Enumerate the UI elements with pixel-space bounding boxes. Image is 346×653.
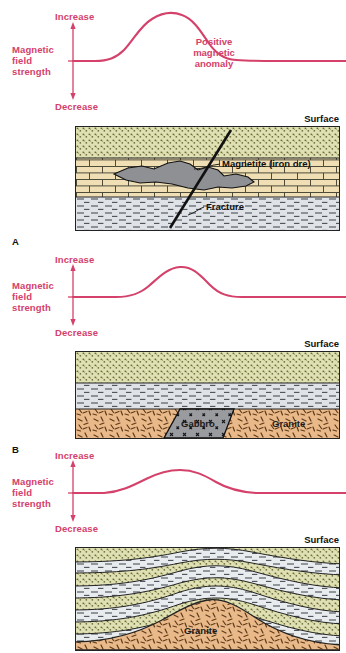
axis-label-line-3-b: strength xyxy=(12,302,54,313)
axis-label-magnetic-field-strength-c: Magnetic field strength xyxy=(12,476,54,509)
axis-label-line-2-b: field xyxy=(12,291,54,302)
granite-label-c: Granite xyxy=(184,625,217,636)
panel-b-cross-section: Gabbro Granite xyxy=(75,351,340,439)
axis-label-line-3: strength xyxy=(12,66,54,77)
panel-b-cross-section-svg: Gabbro Granite xyxy=(76,352,339,438)
panel-c-surface-label: Surface xyxy=(304,534,339,545)
granite-label-b: Granite xyxy=(272,418,305,429)
layer-sandstone xyxy=(76,127,339,158)
panel-b-surface-label: Surface xyxy=(304,338,339,349)
magnetite-label: Magnetite (iron ore) xyxy=(222,158,311,169)
axis-label-line-1-b: Magnetic xyxy=(12,280,54,291)
axis-label-decrease-c: Decrease xyxy=(55,523,98,534)
axis-label-decrease: Decrease xyxy=(55,101,98,112)
axis-label-line-1-c: Magnetic xyxy=(12,476,54,487)
anomaly-annotation-line-2: magnetic xyxy=(172,47,256,58)
anomaly-annotation-line-1: Positive xyxy=(172,36,256,47)
axis-label-line-2-c: field xyxy=(12,487,54,498)
gabbro-label: Gabbro xyxy=(181,418,215,429)
panel-c-anomaly-curve xyxy=(73,470,346,493)
axis-label-line-2: field xyxy=(12,55,54,66)
panel-c-cross-section-svg: Granite xyxy=(76,548,339,650)
panel-a-anomaly-annotation: Positive magnetic anomaly xyxy=(172,36,256,69)
panel-a-surface-label: Surface xyxy=(304,113,339,124)
axis-label-increase: Increase xyxy=(55,11,94,22)
layer-sandstone-b xyxy=(76,352,339,383)
axis-label-increase-c: Increase xyxy=(55,450,94,461)
fracture-label: Fracture xyxy=(206,201,244,212)
panel-b-anomaly-curve xyxy=(73,267,346,297)
panel-letter-a: A xyxy=(12,236,19,247)
panel-b: Increase Decrease Magnetic field strengt… xyxy=(0,250,346,446)
axis-label-decrease-b: Decrease xyxy=(55,327,98,338)
axis-c xyxy=(68,460,78,522)
panel-c: Increase Decrease Magnetic field strengt… xyxy=(0,446,346,653)
panel-a: Increase Decrease Magnetic field strengt… xyxy=(0,0,346,250)
anomaly-annotation-line-3: anomaly xyxy=(172,58,256,69)
axis-label-magnetic-field-strength-b: Magnetic field strength xyxy=(12,280,54,313)
panel-a-cross-section-svg: Magnetite (iron ore) Fracture xyxy=(76,127,339,230)
layer-shale-b xyxy=(76,383,339,409)
axis-label-line-3-c: strength xyxy=(12,498,54,509)
panel-a-cross-section: Magnetite (iron ore) Fracture xyxy=(75,126,340,231)
panel-c-cross-section: Granite xyxy=(75,547,340,651)
axis-b xyxy=(68,264,78,326)
axis-label-line-1: Magnetic xyxy=(12,44,54,55)
axis-label-increase-b: Increase xyxy=(55,254,94,265)
axis-label-magnetic-field-strength: Magnetic field strength xyxy=(12,44,54,77)
